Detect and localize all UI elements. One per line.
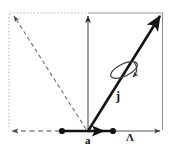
rotation-ellipse: [108, 58, 140, 82]
main-vector: [88, 16, 160, 131]
label-lattice-vector: Λ: [126, 132, 134, 143]
vector-diagram-figure: a j Λ: [0, 0, 172, 149]
diagram-canvas: [0, 0, 172, 149]
label-base-vector: a: [85, 135, 91, 146]
mirror-vector: [14, 16, 86, 129]
node-point-left: [59, 128, 65, 134]
label-spin-vector: j: [116, 90, 120, 102]
node-point-right: [110, 128, 116, 134]
